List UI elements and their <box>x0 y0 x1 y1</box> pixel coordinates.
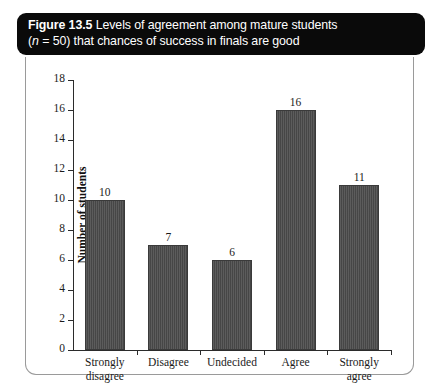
figure-number: Figure 13.5 <box>28 18 92 32</box>
x-tick-mark <box>264 350 265 355</box>
y-tick-label: 16 <box>54 102 66 114</box>
x-axis-line <box>73 350 391 351</box>
x-tick-mark <box>391 350 392 355</box>
bar: 16 <box>276 110 316 350</box>
bar: 11 <box>339 185 379 350</box>
caption-line-2-text: = 50) that chances of success in finals … <box>39 34 300 48</box>
category-label-line: agree <box>327 370 391 384</box>
y-tick-label: 2 <box>59 312 65 324</box>
y-tick-label: 0 <box>59 342 65 354</box>
y-tick-mark <box>68 80 73 81</box>
y-tick-label: 18 <box>54 72 66 84</box>
y-tick-mark <box>68 200 73 201</box>
category-label-line: Disagree <box>137 356 201 370</box>
plot-area: Number of students 024681012141618 10761… <box>73 80 391 350</box>
category-label: Stronglyagree <box>327 356 391 383</box>
bar-value-label: 11 <box>354 171 365 183</box>
y-tick-mark <box>68 170 73 171</box>
x-tick-mark <box>200 350 201 355</box>
y-tick-label: 10 <box>54 192 66 204</box>
y-tick-label: 8 <box>59 222 65 234</box>
y-tick-label: 4 <box>59 282 65 294</box>
x-tick-mark <box>327 350 328 355</box>
y-tick-mark <box>68 260 73 261</box>
category-label-line: Agree <box>264 356 328 370</box>
sample-size-symbol: n <box>32 34 39 48</box>
category-label: Stronglydisagree <box>73 356 137 383</box>
caption-line-2: (n = 50) that chances of success in fina… <box>28 34 414 50</box>
caption-line-1-text: Levels of agreement among mature student… <box>92 18 337 32</box>
y-tick-label: 12 <box>54 162 66 174</box>
y-tick-mark <box>68 230 73 231</box>
y-tick-mark <box>68 290 73 291</box>
bar-value-label: 16 <box>290 96 302 108</box>
y-tick-mark <box>68 320 73 321</box>
y-tick-mark <box>68 350 73 351</box>
category-label-line: Strongly <box>327 356 391 370</box>
x-tick-mark <box>137 350 138 355</box>
y-tick-label: 14 <box>54 132 66 144</box>
bar: 10 <box>85 200 125 350</box>
category-label-line: Undecided <box>200 356 264 370</box>
caption-line-1: Figure 13.5 Levels of agreement among ma… <box>28 18 414 34</box>
bar-value-label: 7 <box>166 231 172 243</box>
bar-value-label: 10 <box>99 186 111 198</box>
y-axis-line <box>73 80 74 350</box>
category-label: Undecided <box>200 356 264 370</box>
chart-panel: Number of students 024681012141618 10761… <box>25 57 414 375</box>
bar-value-label: 6 <box>229 246 235 258</box>
category-label-line: disagree <box>73 370 137 384</box>
y-tick-mark <box>68 110 73 111</box>
figure-caption-banner: Figure 13.5 Levels of agreement among ma… <box>17 13 425 55</box>
category-label: Agree <box>264 356 328 370</box>
bar: 7 <box>148 245 188 350</box>
y-tick-label: 6 <box>59 252 65 264</box>
category-label-line: Strongly <box>73 356 137 370</box>
bar: 6 <box>212 260 252 350</box>
category-label: Disagree <box>137 356 201 370</box>
y-tick-mark <box>68 140 73 141</box>
